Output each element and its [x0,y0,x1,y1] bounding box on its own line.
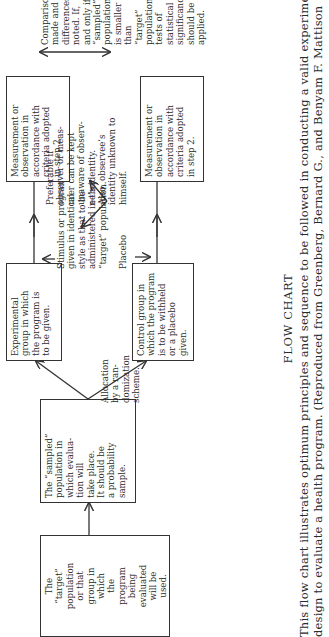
measurement-bottom-box: Measurement or observation in accordance… [140,76,204,182]
control-group-box: Control group in which the program is to… [132,263,194,361]
arrow-sampled-to-experimental [36,361,88,399]
target-population-box: The “target” population or that group in… [40,535,170,637]
caption-text: This flow chart illustrates optimum prin… [297,0,325,637]
caption-title: FLOW CHART [281,0,295,637]
observer-note: Preferable if observer or meas- urer can… [45,118,128,205]
experimental-group-box: Experimental group in which the program … [6,263,62,361]
placebo-note: Placebo [118,235,128,269]
comparison-note: Comparisons made and differences noted. … [40,0,207,45]
allocation-note: Allocation by a ran- domization scheme. [100,355,142,403]
sampled-population-box: The “sampled” population in which evalua… [40,399,136,503]
rotated-document-page: The “target” population or that group in… [0,0,329,637]
